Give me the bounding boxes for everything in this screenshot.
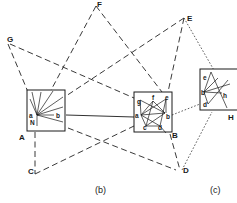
box-h-point-h: h [223, 92, 227, 99]
edge-f-b [96, 6, 162, 92]
edge-e-b [168, 18, 184, 92]
node-g-label: G [7, 35, 13, 44]
edge-e-h [184, 18, 215, 72]
box-b-point-e: e [165, 94, 169, 101]
edge-b-h [172, 104, 200, 115]
caption-b: (b) [95, 185, 106, 195]
box-b-label: B [172, 131, 178, 140]
box-h-label: H [228, 113, 234, 122]
box-b-point-b: b [166, 113, 170, 120]
box-b: g f e a b c d B [134, 92, 178, 140]
box-b-point-g: g [137, 98, 141, 106]
graph-diagram: a b N A g f e a b c d B [0, 0, 237, 203]
node-d-label: D [183, 166, 189, 175]
box-h-point-b: b [201, 89, 205, 96]
box-b-point-d: d [158, 124, 162, 131]
box-h: e b d h H [200, 69, 237, 122]
box-h-point-e: e [203, 74, 207, 81]
edge-e-a [66, 18, 184, 96]
node-e-label: E [187, 14, 193, 23]
edge-g-a [8, 44, 28, 92]
caption-c: (c) [210, 185, 221, 195]
box-a: a b N A [19, 90, 65, 142]
box-b-point-a: a [135, 112, 139, 119]
box-a-label: A [19, 133, 25, 142]
edge-c-b [35, 126, 134, 174]
node-f-label: F [97, 0, 102, 9]
edge-d-a [68, 128, 176, 170]
edge-f-a [50, 6, 96, 92]
box-b-point-c: c [143, 124, 147, 131]
node-c-label: C [28, 167, 34, 176]
box-a-point-b: b [56, 112, 60, 119]
edge-d-h [182, 112, 212, 170]
box-h-point-d: d [203, 101, 207, 108]
box-a-point-a: a [29, 112, 33, 119]
edge-a-b [66, 115, 134, 117]
box-a-point-n: N [30, 119, 35, 126]
